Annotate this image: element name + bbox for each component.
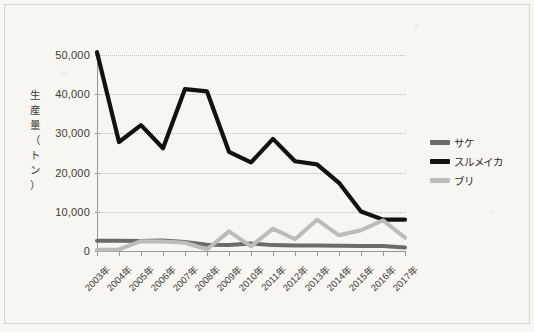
- y-axis-tick-labels: 50,00040,00030,00020,00010,0000: [10, 55, 90, 251]
- x-axis-tick-mark: [141, 251, 142, 256]
- x-axis-tick-mark: [251, 251, 252, 256]
- x-axis-tick-mark: [163, 251, 164, 256]
- plot-area: [97, 55, 405, 251]
- x-axis-tick-mark: [229, 251, 230, 256]
- series-line: [97, 52, 405, 219]
- line-chart: 生産量（トン） 50,00040,00030,00020,00010,0000 …: [0, 0, 534, 332]
- x-axis-tick-mark: [185, 251, 186, 256]
- y-axis-tick-label: 50,000: [55, 49, 90, 61]
- series-lines: [97, 55, 405, 251]
- y-axis-tick-label: 40,000: [55, 88, 90, 100]
- x-axis-tick-mark: [339, 251, 340, 256]
- y-axis-tick-label: 30,000: [55, 127, 90, 139]
- chart-page: 生産量（トン） 50,00040,00030,00020,00010,0000 …: [0, 0, 534, 332]
- y-axis-tick-label: 20,000: [55, 167, 90, 179]
- y-axis-tick-label: 10,000: [55, 206, 90, 218]
- legend-item[interactable]: ブリ: [430, 171, 530, 190]
- x-axis-tick-mark: [361, 251, 362, 256]
- legend-label: ブリ: [454, 173, 474, 188]
- legend-label: スルメイカ: [454, 154, 503, 169]
- x-axis-tick-mark: [405, 251, 406, 256]
- legend-swatch-icon: [430, 178, 450, 183]
- x-axis-tick-mark: [295, 251, 296, 256]
- x-axis-tick-labels: 2003年2004年2005年2006年2007年2008年2009年2010年…: [97, 256, 406, 316]
- x-axis-tick-mark: [119, 251, 120, 256]
- x-axis-tick-mark: [97, 251, 98, 256]
- x-axis-tick-mark: [383, 251, 384, 256]
- x-axis-tick-mark: [317, 251, 318, 256]
- chart-legend: サケスルメイカブリ: [430, 133, 530, 190]
- legend-swatch-icon: [430, 159, 450, 164]
- legend-swatch-icon: [430, 140, 450, 145]
- legend-item[interactable]: サケ: [430, 133, 530, 152]
- legend-item[interactable]: スルメイカ: [430, 152, 530, 171]
- x-axis-tick-mark: [207, 251, 208, 256]
- x-axis-tick-mark: [273, 251, 274, 256]
- y-axis-tick-label: 0: [84, 245, 90, 257]
- legend-label: サケ: [454, 135, 474, 150]
